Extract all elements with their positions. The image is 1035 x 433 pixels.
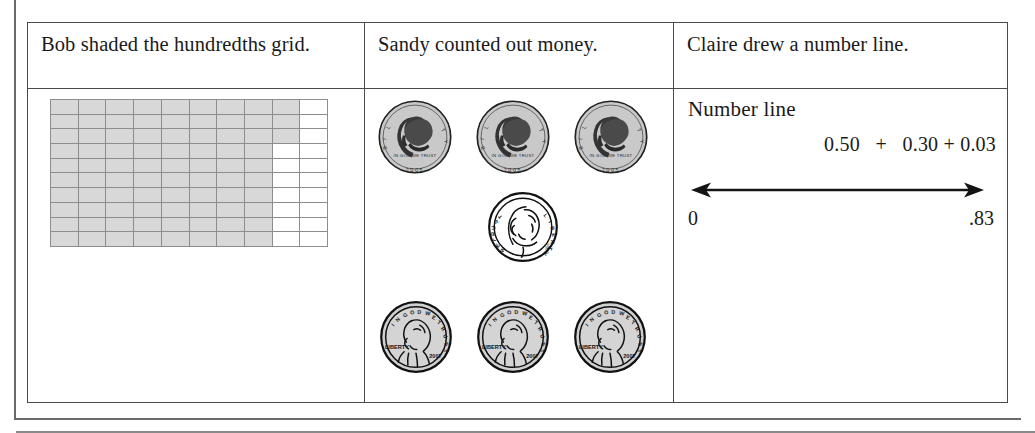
grid-cell: [134, 218, 162, 233]
grid-cell: [217, 173, 245, 188]
grid-cell: [217, 144, 245, 159]
grid-cell: [79, 203, 107, 218]
grid-cell: [79, 115, 107, 130]
grid-cell: [273, 115, 301, 130]
grid-cell: [300, 188, 328, 203]
coin-half-dollar-1: 2005 IN GOD WE TRUST L I B T Y: [377, 99, 453, 175]
grid-cell: [273, 129, 301, 144]
grid-cell: [134, 115, 162, 130]
svg-text:2007: 2007: [623, 353, 635, 359]
grid-cell: [190, 100, 218, 115]
svg-text:2007: 2007: [526, 353, 538, 359]
grid-cell: [106, 173, 134, 188]
grid-cell: [300, 218, 328, 233]
grid-cell: [217, 129, 245, 144]
grid-cell: [162, 144, 190, 159]
header-label-bob: Bob shaded the hundredths grid.: [28, 23, 364, 57]
coin-dime-1: L I B E R T Y T S U R T E W: [487, 191, 559, 263]
coin-penny-2: I N G O D W E T R U S T LIBERTY 2007: [476, 300, 550, 374]
grid-cell: [273, 159, 301, 174]
grid-cell: [162, 159, 190, 174]
grid-cell: [106, 115, 134, 130]
grid-cell: [217, 100, 245, 115]
grid-cell: [273, 203, 301, 218]
grid-cell: [217, 188, 245, 203]
grid-cell: [79, 144, 107, 159]
number-line-expression: 0.50 + 0.30 + 0.03: [674, 133, 996, 156]
grid-cell: [162, 218, 190, 233]
grid-cell: [51, 100, 79, 115]
grid-cell: [79, 218, 107, 233]
grid-cell: [217, 232, 245, 247]
grid-cell: [79, 232, 107, 247]
grid-cell: [106, 100, 134, 115]
grid-cell: [190, 188, 218, 203]
grid-cell: [273, 218, 301, 233]
coin-half-dollar-3: 2005 IN GOD WE TRUST L I B T Y: [573, 99, 649, 175]
grid-cell: [245, 188, 273, 203]
grid-cell: [190, 115, 218, 130]
grid-cell: [190, 144, 218, 159]
grid-cell: [300, 203, 328, 218]
grid-cell: [51, 203, 79, 218]
grid-cell: [79, 159, 107, 174]
grid-cell: [300, 232, 328, 247]
grid-cell: [245, 100, 273, 115]
grid-cell: [245, 159, 273, 174]
grid-cell: [300, 129, 328, 144]
grid-cell: [217, 218, 245, 233]
grid-cell: [79, 100, 107, 115]
grid-cell: [134, 173, 162, 188]
grid-cell: [217, 115, 245, 130]
svg-text:D: D: [417, 309, 421, 315]
grid-cell: [106, 188, 134, 203]
grid-cell: [245, 203, 273, 218]
grid-cell: [162, 188, 190, 203]
number-line-title: Number line: [688, 97, 796, 122]
grid-cell: [79, 129, 107, 144]
grid-cell: [245, 232, 273, 247]
number-line-arrow: [689, 177, 986, 203]
grid-cell: [190, 173, 218, 188]
grid-cell: [190, 218, 218, 233]
svg-text:2005: 2005: [504, 167, 523, 173]
body-cell-money: 2005 IN GOD WE TRUST L I B T Y: [365, 89, 674, 402]
svg-text:R: R: [490, 232, 496, 236]
grid-cell: [245, 115, 273, 130]
grid-cell: [106, 144, 134, 159]
grid-cell: [217, 203, 245, 218]
grid-cell: [300, 144, 328, 159]
grid-cell: [106, 203, 134, 218]
hundredths-grid: [50, 99, 328, 247]
grid-cell: [51, 218, 79, 233]
grid-cell: [300, 173, 328, 188]
grid-cell: [273, 173, 301, 188]
coin-half-dollar-2: 2005 IN GOD WE TRUST L I B T Y: [475, 99, 551, 175]
grid-cell: [106, 232, 134, 247]
grid-cell: [162, 100, 190, 115]
grid-cell: [134, 129, 162, 144]
svg-text:LIBERTY: LIBERTY: [385, 344, 409, 350]
svg-text:D: D: [611, 309, 615, 315]
grid-cell: [51, 144, 79, 159]
svg-text:IN GOD WE TRUST: IN GOD WE TRUST: [394, 153, 437, 158]
page-bottom-rule: [14, 418, 1021, 420]
grid-cell: [300, 100, 328, 115]
grid-cell: [273, 144, 301, 159]
grid-cell: [106, 159, 134, 174]
grid-cell: [162, 115, 190, 130]
grid-cell: [300, 159, 328, 174]
svg-text:IN GOD WE TRUST: IN GOD WE TRUST: [492, 153, 535, 158]
grid-cell: [273, 188, 301, 203]
header-cell-bob: Bob shaded the hundredths grid.: [28, 23, 365, 88]
grid-cell: [190, 232, 218, 247]
table-body-row: 2005 IN GOD WE TRUST L I B T Y: [28, 89, 1007, 402]
grid-cell: [134, 100, 162, 115]
grid-cell: [134, 159, 162, 174]
svg-text:LIBERTY: LIBERTY: [579, 344, 603, 350]
grid-cell: [134, 188, 162, 203]
body-cell-number-line: Number line 0.50 + 0.30 + 0.03 0 .83: [674, 89, 1006, 402]
grid-cell: [273, 232, 301, 247]
body-cell-hundredths-grid: [28, 89, 365, 402]
comparison-table: Bob shaded the hundredths grid. Sandy co…: [27, 22, 1008, 403]
